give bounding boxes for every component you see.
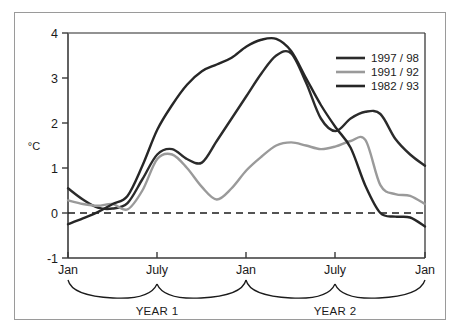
x-tick-label: Jan [415, 263, 435, 277]
year2-label: YEAR 2 [314, 305, 357, 317]
x-tick-label: July [146, 263, 169, 277]
y-tick-label: 1 [51, 162, 58, 176]
year2-bracket-right-arc [335, 280, 425, 298]
y-axis-title: °C [28, 140, 40, 152]
x-axis-ticks [68, 252, 425, 258]
x-tick-label: July [324, 263, 347, 277]
x-tick-label: Jan [236, 263, 256, 277]
legend-label-1997-98: 1997 / 98 [371, 52, 419, 64]
x-tick-label: Jan [58, 263, 78, 277]
chart-legend: 1997 / 98 1991 / 92 1982 / 93 [332, 48, 424, 94]
temperature-anomaly-line-chart: 4 3 2 1 0 -1 °C Jan July Jan July Jan [0, 0, 460, 332]
y-tick-label: -1 [47, 252, 58, 266]
legend-label-1982-93: 1982 / 93 [371, 80, 419, 92]
year1-bracket-left-arc [68, 280, 157, 298]
y-tick-label: 0 [51, 207, 58, 221]
x-axis-tick-labels: Jan July Jan July Jan [58, 263, 435, 277]
year1-bracket-right-arc [157, 280, 246, 298]
year-brackets [68, 280, 425, 298]
y-tick-label: 2 [51, 117, 58, 131]
year1-label: YEAR 1 [136, 305, 179, 317]
figure-container: 4 3 2 1 0 -1 °C Jan July Jan July Jan [0, 0, 460, 332]
y-tick-label: 3 [51, 72, 58, 86]
legend-label-1991-92: 1991 / 92 [371, 66, 419, 78]
y-tick-label: 4 [51, 27, 58, 41]
y-axis-tick-labels: 4 3 2 1 0 -1 [47, 27, 58, 266]
year2-bracket-left-arc [246, 280, 335, 298]
